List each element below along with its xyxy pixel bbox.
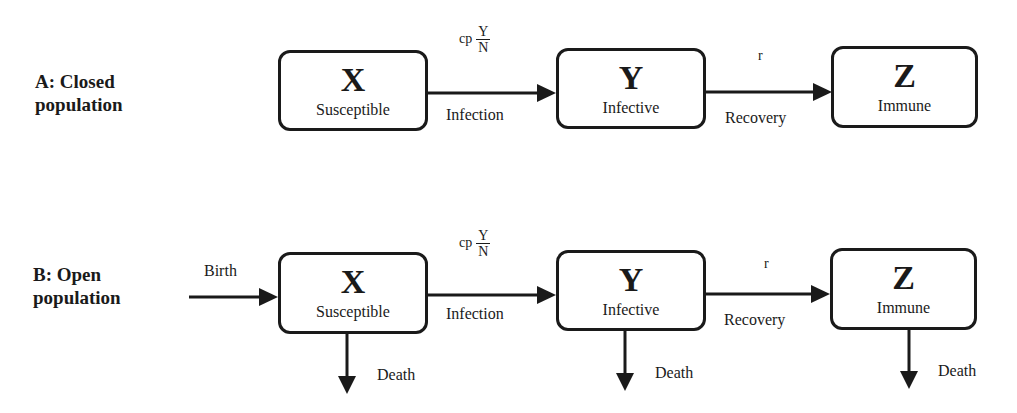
recovery-label-a: Recovery — [725, 109, 786, 127]
compartment-symbol: Z — [833, 261, 974, 295]
compartment-name: Immune — [834, 97, 975, 115]
arrow-death-y-b — [616, 330, 634, 391]
fraction-denominator: N — [476, 244, 490, 259]
panel-a-label: A: Closed population — [35, 70, 123, 116]
birth-label: Birth — [204, 262, 237, 280]
compartment-name: Infective — [559, 99, 703, 117]
compartment-immune-b: Z Immune — [830, 248, 977, 330]
recovery-rate-b: r — [764, 256, 769, 272]
rate-fraction: YN — [476, 228, 490, 259]
arrow-infection-a — [428, 84, 556, 102]
compartment-immune-a: Z Immune — [831, 46, 978, 128]
compartment-symbol: X — [281, 63, 425, 97]
compartment-symbol: Y — [559, 61, 703, 95]
compartment-infective-a: Y Infective — [556, 48, 706, 129]
compartment-infective-b: Y Infective — [556, 250, 706, 331]
infection-label-b: Infection — [446, 305, 504, 323]
arrow-recovery-a — [705, 83, 832, 101]
compartment-name: Susceptible — [281, 303, 425, 321]
fraction-numerator: Y — [476, 24, 490, 40]
arrow-death-x-b — [338, 333, 356, 394]
panel-b-label: B: Open population — [33, 263, 121, 309]
compartment-name: Infective — [559, 301, 703, 319]
recovery-rate-a: r — [758, 48, 763, 64]
death-label-x: Death — [377, 366, 415, 384]
compartment-name: Susceptible — [281, 101, 425, 119]
compartment-symbol: Z — [834, 59, 975, 93]
recovery-label-b: Recovery — [724, 311, 785, 329]
fraction-denominator: N — [476, 40, 490, 55]
compartment-symbol: X — [281, 265, 425, 299]
arrow-death-z-b — [900, 329, 918, 389]
panel-b-label-line2: population — [33, 286, 121, 309]
rate-prefix: cp — [459, 31, 472, 46]
rate-fraction: YN — [476, 24, 490, 55]
death-label-y: Death — [655, 364, 693, 382]
compartment-susceptible-b: X Susceptible — [278, 252, 428, 334]
infection-rate-a: cpYN — [459, 24, 490, 55]
compartment-susceptible-a: X Susceptible — [278, 50, 428, 131]
death-label-z: Death — [938, 362, 976, 380]
infection-label-a: Infection — [446, 106, 504, 124]
compartment-name: Immune — [833, 299, 974, 317]
panel-a-label-line1: A: Closed — [35, 70, 123, 93]
infection-rate-b: cpYN — [459, 228, 490, 259]
arrow-birth-b — [189, 288, 278, 306]
compartment-symbol: Y — [559, 263, 703, 297]
panel-b-label-line1: B: Open — [33, 263, 121, 286]
arrow-infection-b — [428, 286, 556, 304]
rate-prefix: cp — [459, 235, 472, 250]
fraction-numerator: Y — [476, 228, 490, 244]
arrow-recovery-b — [705, 285, 830, 303]
panel-a-label-line2: population — [35, 93, 123, 116]
